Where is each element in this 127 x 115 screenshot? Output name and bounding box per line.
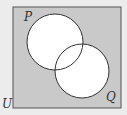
set-p-label: P bbox=[23, 10, 33, 24]
universe-label: U bbox=[2, 97, 13, 111]
venn-diagram: P Q U bbox=[0, 0, 127, 115]
set-q-label: Q bbox=[106, 90, 116, 104]
